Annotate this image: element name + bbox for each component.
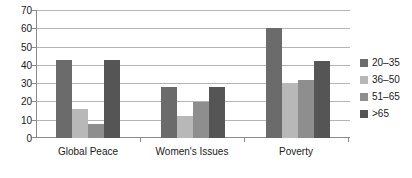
y-tick-label: 30 [2,79,32,89]
bar[interactable] [88,124,104,138]
bar[interactable] [161,87,177,138]
chart-legend: 20–35 36–50 51–65 >65 [360,54,400,122]
bar-groups [36,10,350,138]
bar-group [36,10,141,138]
bar[interactable] [177,116,193,138]
x-tick-mark [348,138,349,142]
category-label: Women's Issues [140,146,244,157]
bar[interactable] [266,28,282,138]
plot-area [36,10,350,138]
y-tick-label: 10 [2,116,32,126]
y-tick-label: 20 [2,97,32,107]
y-tick-label: 60 [2,24,32,34]
legend-swatch-icon [360,110,368,118]
legend-item[interactable]: 20–35 [360,54,400,71]
x-tick-mark [140,138,141,142]
bar[interactable] [314,61,330,138]
category-label: Poverty [244,146,348,157]
legend-item[interactable]: >65 [360,105,400,122]
y-tick-label: 0 [2,134,32,144]
legend-label: 51–65 [372,92,400,102]
y-tick-label: 40 [2,61,32,71]
legend-swatch-icon [360,59,368,67]
legend-item[interactable]: 36–50 [360,71,400,88]
bar-chart: 70 60 50 40 30 20 10 0 [0,0,412,178]
legend-label: 20–35 [372,58,400,68]
y-tick-label: 50 [2,43,32,53]
legend-label: 36–50 [372,75,400,85]
legend-swatch-icon [360,93,368,101]
bar-group [245,10,350,138]
legend-swatch-icon [360,76,368,84]
bar[interactable] [282,83,298,138]
bar[interactable] [56,60,72,138]
legend-item[interactable]: 51–65 [360,88,400,105]
y-tick-label: 70 [2,6,32,16]
bar[interactable] [193,102,209,138]
category-label: Global Peace [36,146,140,157]
x-tick-mark [244,138,245,142]
legend-label: >65 [372,109,389,119]
bar[interactable] [298,80,314,139]
bar[interactable] [104,60,120,138]
bar-group [141,10,246,138]
bar[interactable] [72,109,88,138]
bar[interactable] [209,87,225,138]
